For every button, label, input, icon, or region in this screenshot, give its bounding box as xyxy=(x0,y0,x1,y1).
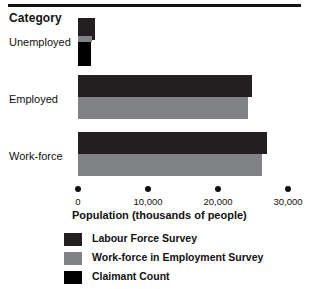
legend-item-workforce-in-employment-survey[interactable]: Work-force in Employment Survey xyxy=(64,250,304,269)
legend-label-claimant-count: Claimant Count xyxy=(92,270,170,282)
top-rule-divider xyxy=(8,4,301,7)
x-axis-tick-label-20000: 20,000 xyxy=(203,196,232,207)
category-label-employed: Employed xyxy=(9,93,58,105)
x-axis-tick-label-10000: 10,000 xyxy=(133,196,162,207)
chart-container: Category Unemployed Employed Work-force … xyxy=(0,0,309,289)
bar-group-unemployed xyxy=(78,18,288,68)
bar-unemployed-workforce-in-employment[interactable] xyxy=(78,36,92,42)
x-axis-title: Population (thousands of people) xyxy=(72,209,247,221)
legend-label-workforce-in-employment-survey: Work-force in Employment Survey xyxy=(92,251,263,263)
bar-workforce-workforce-in-employment[interactable] xyxy=(78,154,262,176)
legend-swatch-icon-claimant-count xyxy=(64,271,82,284)
x-axis-tick-dot-0 xyxy=(75,186,81,192)
legend-swatch-icon-workforce-in-employment-survey xyxy=(64,252,82,265)
category-heading: Category xyxy=(9,11,62,25)
category-label-workforce: Work-force xyxy=(9,150,63,162)
x-axis: 0 10,000 20,000 30,000 xyxy=(78,186,288,187)
x-axis-tick-dot-10000 xyxy=(145,186,151,192)
bar-group-workforce xyxy=(78,132,288,182)
x-axis-tick-label-30000: 30,000 xyxy=(273,196,302,207)
plot-area xyxy=(78,18,288,180)
legend: Labour Force Survey Work-force in Employ… xyxy=(64,231,304,288)
legend-label-labour-force-survey: Labour Force Survey xyxy=(92,232,197,244)
bar-employed-workforce-in-employment[interactable] xyxy=(78,97,248,119)
bar-group-employed xyxy=(78,75,288,125)
legend-item-claimant-count[interactable]: Claimant Count xyxy=(64,269,304,288)
x-axis-tick-label-0: 0 xyxy=(75,196,80,207)
bar-employed-labour-force-survey[interactable] xyxy=(78,75,252,97)
x-axis-tick-dot-20000 xyxy=(215,186,221,192)
category-label-unemployed: Unemployed xyxy=(9,36,71,48)
legend-swatch-icon-labour-force-survey xyxy=(64,233,82,246)
legend-item-labour-force-survey[interactable]: Labour Force Survey xyxy=(64,231,304,250)
x-axis-tick-dot-30000 xyxy=(285,186,291,192)
bar-workforce-labour-force-survey[interactable] xyxy=(78,132,267,154)
bar-unemployed-claimant-count[interactable] xyxy=(78,40,91,66)
